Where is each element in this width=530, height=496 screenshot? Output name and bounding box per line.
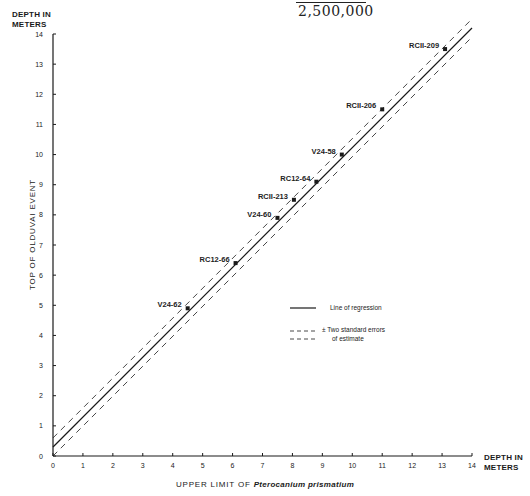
data-points: V24-62RC12-66V24-60RCII-213RC12-64V24-58… — [157, 41, 447, 310]
data-point: RCII-209 — [409, 41, 447, 51]
regression-line — [53, 28, 472, 447]
y-tick-label: 0 — [39, 453, 43, 460]
data-point-marker — [314, 180, 318, 184]
data-point-label: RC12-66 — [200, 255, 230, 264]
x-tick-label: 1 — [81, 462, 85, 469]
y-tick-label: 4 — [39, 332, 43, 339]
x-tick-label: 10 — [348, 462, 356, 469]
x-tick-label: 11 — [379, 462, 386, 469]
plot-axes: 0123456789101112131401234567891011121314 — [35, 31, 476, 470]
data-point: V24-58 — [312, 147, 344, 157]
data-point-marker — [186, 306, 190, 310]
y-tick-label: 6 — [39, 272, 43, 279]
y-tick-label: 11 — [36, 121, 43, 128]
x-tick-label: 6 — [231, 462, 235, 469]
x-tick-label: 4 — [171, 462, 175, 469]
lower-error-line — [53, 37, 472, 456]
data-point-label: RC12-64 — [280, 174, 311, 183]
data-point-marker — [234, 261, 238, 265]
x-tick-label: 14 — [468, 462, 476, 469]
regression-lines — [53, 19, 472, 456]
data-point: V24-60 — [247, 210, 279, 220]
y-tick-label: 3 — [39, 362, 43, 369]
data-point: V24-62 — [157, 300, 189, 310]
x-tick-label: 0 — [51, 462, 55, 469]
legend-error-label-line2: of estimate — [332, 335, 364, 342]
data-point-label: V24-60 — [247, 210, 271, 219]
data-point-marker — [340, 153, 344, 157]
x-tick-label: 5 — [201, 462, 205, 469]
data-point-marker — [443, 47, 447, 51]
x-tick-label: 3 — [141, 462, 145, 469]
data-point-label: RCII-206 — [346, 101, 376, 110]
x-tick-label: 13 — [438, 462, 446, 469]
x-tick-label: 12 — [408, 462, 416, 469]
data-point-label: RCII-213 — [258, 192, 288, 201]
data-point: RCII-206 — [346, 101, 384, 111]
y-tick-label: 5 — [39, 302, 43, 309]
y-tick-label: 7 — [39, 242, 43, 249]
data-point-marker — [292, 198, 296, 202]
scatter-plot: 0123456789101112131401234567891011121314… — [0, 0, 530, 496]
data-point: RC12-66 — [200, 255, 238, 265]
data-point-label: RCII-209 — [409, 41, 439, 50]
legend: Line of regression ± Two standard errors… — [290, 304, 386, 342]
y-tick-label: 1 — [39, 422, 43, 429]
legend-regression-label: Line of regression — [330, 304, 382, 312]
data-point-label: V24-58 — [312, 147, 336, 156]
upper-error-line — [53, 19, 472, 438]
x-tick-label: 7 — [261, 462, 265, 469]
x-tick-label: 2 — [111, 462, 115, 469]
y-tick-label: 12 — [35, 91, 43, 98]
data-point-marker — [380, 107, 384, 111]
y-tick-label: 14 — [35, 31, 43, 38]
data-point-label: V24-62 — [157, 300, 181, 309]
x-tick-label: 9 — [320, 462, 324, 469]
y-tick-label: 13 — [35, 61, 43, 68]
y-tick-label: 9 — [39, 181, 43, 188]
y-tick-label: 2 — [39, 392, 43, 399]
x-tick-label: 8 — [290, 462, 294, 469]
data-point-marker — [275, 216, 279, 220]
legend-error-label-line1: ± Two standard errors — [322, 326, 386, 333]
y-tick-label: 10 — [35, 151, 43, 158]
y-tick-label: 8 — [39, 211, 43, 218]
